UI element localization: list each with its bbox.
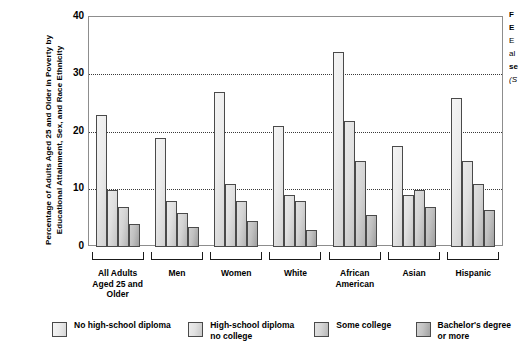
group-bracket [92, 252, 144, 260]
group-label-women: Women [207, 268, 266, 308]
bracket-cell [444, 252, 503, 264]
legend-item-bachelors-degree-or-more: Bachelor's degree or more [416, 320, 526, 342]
caption-line: al [509, 47, 526, 60]
caption-line: (S [509, 73, 526, 86]
bar-group-asian [384, 16, 443, 246]
bar-asian-bachelor-s-degree-or-more[interactable] [425, 207, 436, 247]
group-label-hispanic: Hispanic [444, 268, 503, 308]
bar-group-all-adults-aged-25-and-older [88, 16, 147, 246]
y-tick-40: 40 [60, 11, 84, 21]
bar-women-bachelor-s-degree-or-more[interactable] [247, 221, 258, 247]
bar-all-adults-aged-25-and-older-no-high-school-diploma[interactable] [96, 115, 107, 247]
caption-line: E [509, 21, 526, 34]
bar-hispanic-some-college[interactable] [473, 184, 484, 247]
y-tick-0: 0 [60, 241, 84, 251]
legend-label: Bachelor's degree or more [438, 320, 511, 342]
caption-line: F [509, 8, 526, 21]
y-axis-tick-labels: 40 30 20 10 0 [56, 0, 84, 260]
chart-legend: No high-school diploma High-school diplo… [52, 320, 526, 354]
bracket-cell [266, 252, 325, 264]
bracket-cell [147, 252, 206, 264]
bar-white-high-school-diploma-no-college[interactable] [284, 195, 295, 247]
caption-line: E [509, 34, 526, 47]
group-label-men: Men [147, 268, 206, 308]
group-bracket [388, 252, 440, 260]
y-tick-20: 20 [60, 126, 84, 136]
bar-men-some-college[interactable] [177, 213, 188, 248]
legend-swatch-icon [416, 322, 431, 337]
bracket-cell [207, 252, 266, 264]
group-label-all-adults: All Adults Aged 25 and Older [88, 268, 147, 308]
bar-white-some-college[interactable] [295, 201, 306, 247]
group-bracket [447, 252, 499, 260]
bracket-cell [325, 252, 384, 264]
bar-men-no-high-school-diploma[interactable] [155, 138, 166, 247]
bar-all-adults-aged-25-and-older-high-school-diploma-no-college[interactable] [107, 190, 118, 248]
y-tick-30: 30 [60, 68, 84, 78]
legend-label: High-school diploma no college [210, 320, 294, 342]
bar-african-american-high-school-diploma-no-college[interactable] [344, 121, 355, 248]
legend-item-some-college: Some college [314, 320, 415, 337]
group-bracket [329, 252, 381, 260]
bar-men-bachelor-s-degree-or-more[interactable] [188, 227, 199, 247]
bar-all-adults-aged-25-and-older-some-college[interactable] [118, 207, 129, 247]
legend-label: No high-school diploma [74, 320, 171, 331]
bar-african-american-bachelor-s-degree-or-more[interactable] [366, 215, 377, 247]
bar-groups [88, 16, 503, 246]
legend-item-no-high-school-diploma: No high-school diploma [52, 320, 188, 337]
bar-asian-no-high-school-diploma[interactable] [392, 146, 403, 247]
bracket-cell [384, 252, 443, 264]
bar-women-some-college[interactable] [236, 201, 247, 247]
bar-african-american-no-high-school-diploma[interactable] [333, 52, 344, 248]
figure-caption: F E E al se (S [509, 8, 526, 86]
bar-group-african-american [325, 16, 384, 246]
x-axis-group-labels: All Adults Aged 25 and Older Men Women W… [88, 268, 503, 308]
caption-line: se [509, 60, 526, 73]
legend-swatch-icon [314, 322, 329, 337]
bar-women-no-high-school-diploma[interactable] [214, 92, 225, 247]
bar-group-white [266, 16, 325, 246]
bar-women-high-school-diploma-no-college[interactable] [225, 184, 236, 247]
bar-white-no-high-school-diploma[interactable] [273, 126, 284, 247]
bar-asian-high-school-diploma-no-college[interactable] [403, 195, 414, 247]
group-brackets [88, 252, 503, 264]
bar-men-high-school-diploma-no-college[interactable] [166, 201, 177, 247]
group-bracket [151, 252, 203, 260]
bar-group-hispanic [444, 16, 503, 246]
bar-african-american-some-college[interactable] [355, 161, 366, 247]
bar-group-women [207, 16, 266, 246]
legend-label: Some college [336, 320, 391, 331]
bar-white-bachelor-s-degree-or-more[interactable] [306, 230, 317, 247]
bar-group-men [147, 16, 206, 246]
legend-swatch-icon [188, 322, 203, 337]
group-label-african-american: African American [325, 268, 384, 308]
bar-hispanic-no-high-school-diploma[interactable] [451, 98, 462, 248]
legend-item-high-school-diploma-no-college: High-school diploma no college [188, 320, 314, 342]
legend-swatch-icon [52, 322, 67, 337]
y-tick-10: 10 [60, 183, 84, 193]
group-bracket [269, 252, 321, 260]
group-label-asian: Asian [384, 268, 443, 308]
bracket-cell [88, 252, 147, 264]
bar-hispanic-high-school-diploma-no-college[interactable] [462, 161, 473, 247]
bar-asian-some-college[interactable] [414, 190, 425, 248]
bar-all-adults-aged-25-and-older-bachelor-s-degree-or-more[interactable] [129, 224, 140, 247]
bar-hispanic-bachelor-s-degree-or-more[interactable] [484, 210, 495, 247]
group-label-white: White [266, 268, 325, 308]
group-bracket [210, 252, 262, 260]
